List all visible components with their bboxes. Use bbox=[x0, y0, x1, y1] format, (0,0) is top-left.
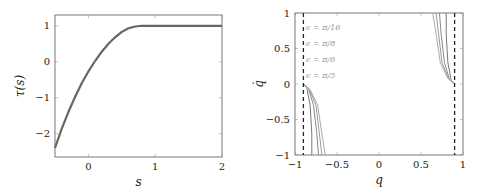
legend-entry: ϵ = π/16 bbox=[306, 23, 340, 32]
x-tick-label: 0 bbox=[85, 161, 91, 172]
y-tick-label: 0 bbox=[284, 79, 290, 90]
y-tick-label: 0 bbox=[44, 56, 50, 67]
y-tick-label: −2 bbox=[35, 128, 50, 139]
legend-entry: ϵ = π/5 bbox=[306, 71, 335, 80]
x-tick-label: −0.5 bbox=[325, 159, 349, 170]
x-tick-label: 0 bbox=[376, 159, 382, 170]
qdot-curve-right bbox=[433, 13, 455, 84]
x-tick-label: 1 bbox=[152, 161, 158, 172]
x-axis-label: q bbox=[375, 173, 383, 187]
plot-frame bbox=[295, 13, 463, 155]
x-tick-label: 2 bbox=[219, 161, 225, 172]
y-tick-label: −1 bbox=[275, 150, 290, 161]
y-axis-label: q̇ bbox=[252, 80, 266, 88]
y-tick-label: −1 bbox=[35, 92, 50, 103]
y-tick-label: 1 bbox=[44, 20, 50, 31]
tau-curve bbox=[55, 26, 222, 148]
x-tick-label: 1 bbox=[460, 159, 466, 170]
x-tick-label: 0.5 bbox=[413, 159, 429, 170]
y-axis-label: τ(s) bbox=[13, 75, 27, 97]
plot-2 bbox=[295, 13, 463, 155]
y-tick-label: 1 bbox=[284, 8, 290, 19]
legend-entry: ϵ = π/8 bbox=[306, 39, 335, 48]
x-tick-label: −1 bbox=[288, 159, 303, 170]
y-tick-label: −0.5 bbox=[266, 114, 290, 125]
x-axis-label: s bbox=[135, 175, 141, 189]
legend-entry: ϵ = π/6 bbox=[306, 55, 335, 64]
qdot-curve-left bbox=[303, 84, 325, 155]
tau-chart: 01210−1−2sτ(s)−1−0.500.5110.50−0.5−1ϵ = … bbox=[0, 0, 479, 195]
y-tick-label: 0.5 bbox=[274, 43, 290, 54]
